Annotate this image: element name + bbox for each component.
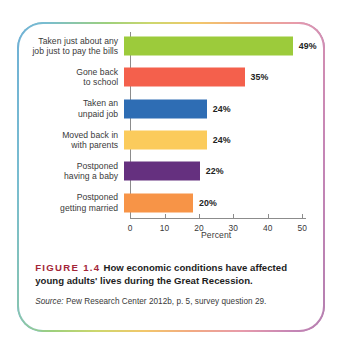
- x-axis-tick: [165, 214, 166, 218]
- bar-value-label: 24%: [213, 104, 231, 114]
- bar-track: 24%: [124, 124, 323, 155]
- plot-area: Taken just about anyjob just to pay the …: [19, 30, 323, 218]
- bar-category-label: Gone backto school: [19, 67, 124, 87]
- bar-track: 20%: [124, 187, 323, 218]
- bar-value-label: 24%: [213, 135, 231, 145]
- bar-track: 49%: [124, 30, 323, 61]
- bar-value-label: 20%: [199, 198, 217, 208]
- bar-value-label: 35%: [251, 72, 269, 82]
- figure-source: Source: Pew Research Center 2012b, p. 5,…: [35, 297, 307, 307]
- figure-number: FIGURE 1.4: [35, 262, 100, 273]
- bar-category-label: Taken just about anyjob just to pay the …: [19, 36, 124, 56]
- bar-row: Postponedgetting married20%: [19, 187, 323, 218]
- source-label: Source:: [35, 297, 63, 306]
- bar: [124, 36, 293, 55]
- x-axis-tick: [268, 214, 269, 218]
- bar-row: Moved back inwith parents24%: [19, 124, 323, 155]
- bar-category-label: Postponedhaving a baby: [19, 161, 124, 181]
- bar: [124, 162, 200, 181]
- x-axis-tick: [199, 214, 200, 218]
- x-axis-tick: [302, 214, 303, 218]
- bar-category-label: Postponedgetting married: [19, 192, 124, 212]
- x-axis-tick: [233, 214, 234, 218]
- bar-chart: Taken just about anyjob just to pay the …: [19, 30, 323, 254]
- bar: [124, 130, 207, 149]
- bar-category-label: Taken anunpaid job: [19, 98, 124, 118]
- figure-caption: FIGURE 1.4How economic conditions have a…: [35, 262, 307, 288]
- bar-row: Postponedhaving a baby22%: [19, 156, 323, 187]
- bar-value-label: 22%: [206, 166, 224, 176]
- bar-row: Taken just about anyjob just to pay the …: [19, 30, 323, 61]
- bar: [124, 68, 244, 87]
- bar-row: Taken anunpaid job24%: [19, 93, 323, 124]
- bar-track: 22%: [124, 156, 323, 187]
- bar-track: 24%: [124, 93, 323, 124]
- bar: [124, 99, 207, 118]
- figure-card-inner: Taken just about anyjob just to pay the …: [19, 24, 323, 330]
- source-text: Pew Research Center 2012b, p. 5, survey …: [66, 297, 266, 306]
- bar-category-label: Moved back inwith parents: [19, 130, 124, 150]
- figure-card: Taken just about anyjob just to pay the …: [17, 22, 325, 332]
- x-axis-title: Percent: [130, 230, 302, 240]
- bar-value-label: 49%: [299, 41, 317, 51]
- x-axis-tick: [130, 214, 131, 218]
- figure-caption-block: FIGURE 1.4How economic conditions have a…: [35, 262, 307, 307]
- bar: [124, 193, 193, 212]
- bar-row: Gone backto school35%: [19, 62, 323, 93]
- x-axis-line: 01020304050: [130, 218, 306, 219]
- bar-track: 35%: [124, 62, 323, 93]
